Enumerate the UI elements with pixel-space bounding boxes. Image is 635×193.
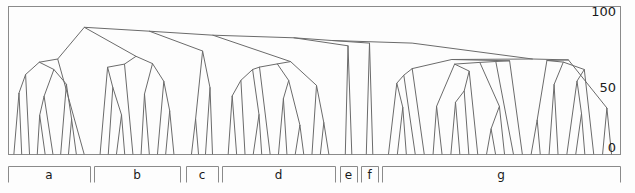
axis-tick-0: 0	[608, 140, 616, 155]
dendrogram-figure: 100500 abcdefg	[0, 0, 635, 193]
group-label-f: f	[367, 168, 372, 182]
group-label-e: e	[345, 168, 352, 182]
axis-tick-50: 50	[599, 80, 616, 95]
group-label-g: g	[497, 168, 505, 182]
group-label-a: a	[45, 168, 52, 182]
dendrogram-svg: 100500 abcdefg	[0, 0, 635, 193]
group-brackets: abcdefg	[9, 167, 621, 183]
group-label-d: d	[275, 168, 283, 182]
axis-tick-100: 100	[591, 4, 616, 19]
group-label-b: b	[133, 168, 141, 182]
group-label-c: c	[199, 168, 206, 182]
